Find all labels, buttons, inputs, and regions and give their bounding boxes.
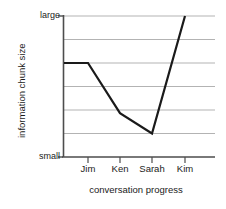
gridline-group (63, 16, 215, 134)
x-tick-group (88, 157, 185, 163)
y-axis-max-label: large (28, 11, 60, 20)
y-axis-min-label: small (28, 152, 60, 161)
data-series-line (64, 16, 185, 134)
chart-plot-area (0, 0, 226, 209)
y-axis-title: information chunk size (17, 16, 27, 166)
chart-figure: large small information chunk size Jim K… (0, 0, 226, 209)
x-tick-label-kim: Kim (165, 164, 205, 174)
x-axis-title: conversation progress (56, 185, 216, 195)
